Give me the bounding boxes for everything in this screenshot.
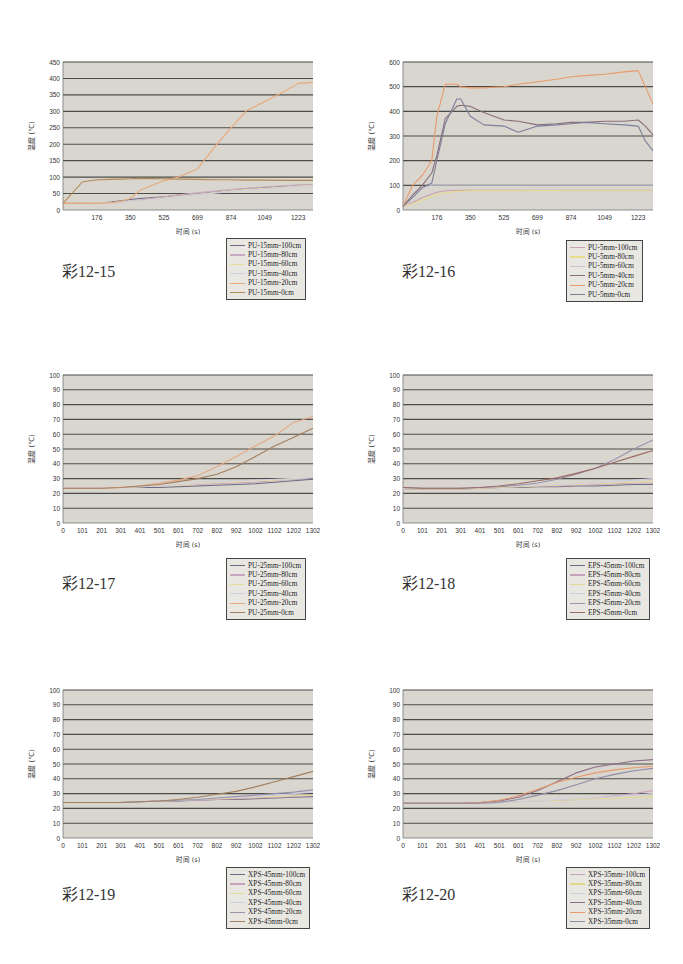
x-tick-label: 1049 <box>257 214 272 221</box>
x-tick-label: 501 <box>494 527 505 534</box>
x-tick-label: 350 <box>465 214 476 221</box>
x-tick-label: 501 <box>494 842 505 849</box>
y-tick-label: 60 <box>393 746 401 753</box>
legend-label: PU-5mm-60cm <box>588 262 634 270</box>
x-tick-label: 1049 <box>597 214 612 221</box>
y-tick-label: 40 <box>393 775 401 782</box>
y-axis-label: 温度 (℃) <box>367 434 376 464</box>
chart-c12-20: 0102030405060708090100010120130140150160… <box>360 683 660 868</box>
legend-item: XPS-35mm-20cm <box>570 908 645 917</box>
y-tick-label: 20 <box>393 805 401 812</box>
x-tick-label: 101 <box>417 842 428 849</box>
chart-c12-16: 0100200300400500600176350525699874104912… <box>360 55 660 240</box>
x-tick-label: 699 <box>532 214 543 221</box>
legend-swatch-icon <box>570 574 585 575</box>
y-tick-label: 100 <box>49 687 60 694</box>
y-tick-label: 0 <box>56 207 60 214</box>
legend-item: XPS-35mm-80cm <box>570 879 645 888</box>
legend-swatch-icon <box>570 883 585 884</box>
legend-label: PU-25mm-60cm <box>248 580 298 588</box>
x-tick-label: 874 <box>566 214 577 221</box>
y-tick-label: 0 <box>396 835 400 842</box>
legend-swatch-icon <box>570 902 585 903</box>
legend-swatch-icon <box>570 275 585 276</box>
legend-item: PU-15mm-80cm <box>230 250 301 259</box>
legend-item: PU-5mm-100cm <box>570 243 638 252</box>
y-tick-label: 40 <box>393 460 401 467</box>
legend-item: PU-5mm-80cm <box>570 252 638 261</box>
chart-c12-18: 0102030405060708090100010120130140150160… <box>360 368 660 553</box>
x-tick-label: 802 <box>212 842 223 849</box>
x-tick-label: 802 <box>212 527 223 534</box>
y-tick-label: 200 <box>389 157 400 164</box>
legend-swatch-icon <box>570 612 585 613</box>
x-tick-label: 201 <box>436 527 447 534</box>
x-tick-label: 702 <box>532 527 543 534</box>
x-tick-label: 1202 <box>287 527 302 534</box>
x-axis-label: 时间 (s) <box>516 540 541 549</box>
y-axis-label: 温度 (℃) <box>27 434 36 464</box>
x-tick-label: 101 <box>77 842 88 849</box>
x-tick-label: 1002 <box>248 527 263 534</box>
y-tick-label: 500 <box>389 83 400 90</box>
y-tick-label: 80 <box>53 716 61 723</box>
x-axis-label: 时间 (s) <box>516 227 541 236</box>
chart-legend: XPS-35mm-100cmXPS-35mm-80cmXPS-35mm-60cm… <box>566 867 650 929</box>
y-tick-label: 30 <box>53 790 61 797</box>
x-tick-label: 699 <box>192 214 203 221</box>
x-tick-label: 601 <box>513 527 524 534</box>
chart-c12-15: 0501001502002503003504004501763505256998… <box>20 55 320 240</box>
y-tick-label: 40 <box>53 460 61 467</box>
legend-swatch-icon <box>230 574 245 575</box>
y-tick-label: 90 <box>393 386 401 393</box>
x-tick-label: 201 <box>436 842 447 849</box>
y-tick-label: 100 <box>389 687 400 694</box>
x-tick-label: 902 <box>571 527 582 534</box>
x-tick-label: 1202 <box>627 842 642 849</box>
y-tick-label: 50 <box>393 761 401 768</box>
legend-item: XPS-45mm-100cm <box>230 870 305 879</box>
y-tick-label: 80 <box>393 401 401 408</box>
x-tick-label: 301 <box>115 527 126 534</box>
legend-item: XPS-45mm-80cm <box>230 879 305 888</box>
y-tick-label: 20 <box>53 490 61 497</box>
x-tick-label: 101 <box>77 527 88 534</box>
x-tick-label: 101 <box>417 527 428 534</box>
y-tick-label: 50 <box>53 761 61 768</box>
chart-legend: XPS-45mm-100cmXPS-45mm-80cmXPS-45mm-60cm… <box>226 867 310 929</box>
legend-swatch-icon <box>570 285 585 286</box>
x-tick-label: 702 <box>192 842 203 849</box>
chart-legend: EPS-45mm-100cmEPS-45mm-80cmEPS-45mm-60cm… <box>566 558 650 620</box>
legend-label: XPS-35mm-60cm <box>588 889 642 897</box>
y-tick-label: 60 <box>53 431 61 438</box>
legend-swatch-icon <box>570 266 585 267</box>
y-tick-label: 10 <box>53 505 61 512</box>
legend-label: EPS-45mm-100cm <box>588 562 645 570</box>
x-tick-label: 1002 <box>588 527 603 534</box>
legend-item: PU-5mm-60cm <box>570 262 638 271</box>
x-tick-label: 301 <box>455 842 466 849</box>
y-tick-label: 0 <box>396 520 400 527</box>
x-axis-label: 时间 (s) <box>176 855 201 864</box>
y-tick-label: 70 <box>53 416 61 423</box>
legend-swatch-icon <box>570 874 585 875</box>
legend-item: XPS-35mm-60cm <box>570 889 645 898</box>
legend-swatch-icon <box>570 912 585 913</box>
figure-caption: 彩12-20 <box>402 881 455 905</box>
x-tick-label: 601 <box>173 842 184 849</box>
x-tick-label: 902 <box>571 842 582 849</box>
y-tick-label: 350 <box>49 91 60 98</box>
y-tick-label: 100 <box>49 174 60 181</box>
legend-item: PU-5mm-40cm <box>570 271 638 280</box>
y-tick-label: 90 <box>53 386 61 393</box>
legend-label: PU-25mm-40cm <box>248 590 298 598</box>
legend-swatch-icon <box>230 921 245 922</box>
legend-swatch-icon <box>570 565 585 566</box>
y-tick-label: 80 <box>393 716 401 723</box>
legend-label: PU-15mm-100cm <box>248 242 301 250</box>
legend-swatch-icon <box>230 612 245 613</box>
x-tick-label: 1002 <box>588 842 603 849</box>
x-tick-label: 301 <box>115 842 126 849</box>
legend-item: EPS-45mm-0cm <box>570 608 645 617</box>
legend-label: XPS-35mm-100cm <box>588 871 645 879</box>
